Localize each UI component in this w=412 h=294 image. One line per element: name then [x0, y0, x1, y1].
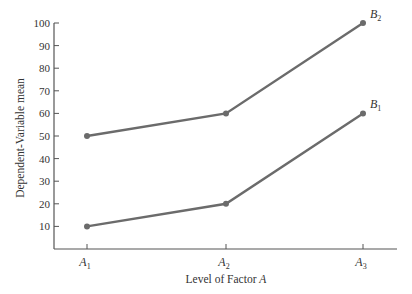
x-tick-label: A2: [217, 255, 229, 271]
y-tick-label: 40: [39, 153, 51, 165]
data-point: [223, 201, 229, 207]
data-point: [223, 110, 229, 116]
y-tick-label: 50: [39, 130, 51, 142]
y-axis-title: Dependent-Variable mean: [14, 78, 27, 198]
y-tick-label: 80: [39, 62, 51, 74]
data-point: [360, 110, 366, 116]
series-label: B1: [370, 97, 381, 113]
data-point: [84, 133, 90, 139]
y-tick-label: 10: [39, 220, 51, 232]
x-axis-title: Level of Factor A: [186, 273, 268, 285]
y-axis: 102030405060708090100: [34, 17, 60, 249]
y-tick-label: 70: [39, 85, 51, 97]
y-tick-label: 60: [39, 107, 51, 119]
data-point: [360, 20, 366, 26]
line-chart: 102030405060708090100 A1A2A3 B1B2 Depend…: [0, 0, 412, 294]
y-tick-label: 90: [39, 40, 51, 52]
series-line: [87, 23, 363, 136]
y-tick-label: 20: [39, 198, 51, 210]
data-point: [84, 223, 90, 229]
y-tick-label: 30: [39, 175, 51, 187]
x-axis: A1A2A3: [54, 244, 397, 271]
x-tick-label: A3: [354, 255, 366, 271]
series-label: B2: [370, 7, 381, 23]
y-tick-label: 100: [34, 17, 51, 29]
series-b1: B1: [84, 97, 381, 229]
series-group: B1B2: [84, 7, 381, 229]
x-tick-label: A1: [78, 255, 90, 271]
series-b2: B2: [84, 7, 381, 139]
